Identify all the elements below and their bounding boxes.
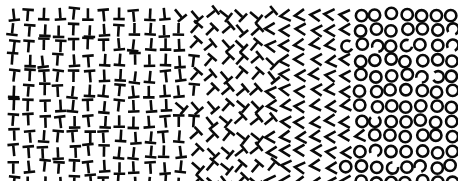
- stimulus-canvas: [0, 0, 458, 181]
- texture-gradient-figure: [0, 0, 458, 181]
